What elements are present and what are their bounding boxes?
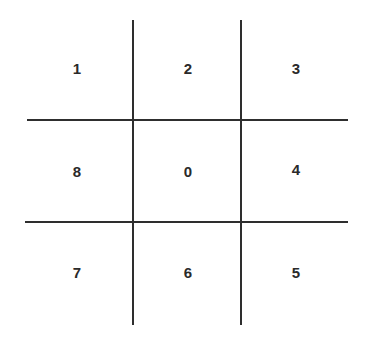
vertical-line-left xyxy=(132,20,134,325)
cell-top-right: 3 xyxy=(276,60,316,78)
cell-middle-left: 8 xyxy=(57,163,97,181)
cell-bottom-left: 7 xyxy=(57,264,97,282)
cell-top-center: 2 xyxy=(168,60,208,78)
cell-bottom-right: 5 xyxy=(276,264,316,282)
cell-middle-right: 4 xyxy=(276,161,316,179)
cell-center: 0 xyxy=(168,163,208,181)
vertical-line-right xyxy=(240,20,242,325)
horizontal-line-bottom xyxy=(25,221,348,223)
horizontal-line-top xyxy=(27,119,348,121)
cell-top-left: 1 xyxy=(57,60,97,78)
cell-bottom-center: 6 xyxy=(168,264,208,282)
